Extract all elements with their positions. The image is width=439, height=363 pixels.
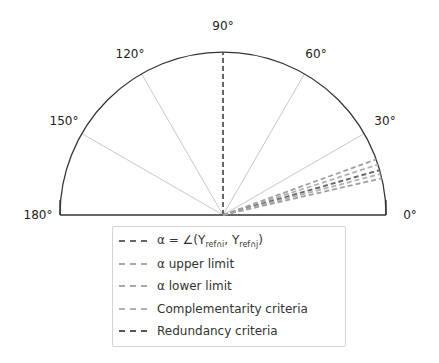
legend-label: α = ∠(Yref∩i, Yref∩j) xyxy=(157,233,263,249)
tick-90: 90° xyxy=(212,19,233,33)
legend-label: α upper limit xyxy=(157,257,234,271)
tick-180: 180° xyxy=(24,208,53,222)
dashed-line-icon xyxy=(119,330,147,332)
legend-item-upper-limit: α upper limit xyxy=(119,253,339,276)
tick-150: 150° xyxy=(50,114,79,128)
legend-item-complementarity: Complementarity criteria xyxy=(119,298,339,321)
legend-item-lower-limit: α lower limit xyxy=(119,275,339,298)
legend-label: Complementarity criteria xyxy=(157,302,308,316)
lower-limit-line xyxy=(223,178,382,215)
legend-label: Redundancy criteria xyxy=(157,324,278,338)
tick-0: 0° xyxy=(403,208,417,222)
dashed-line-icon xyxy=(119,263,147,265)
dashed-line-icon xyxy=(119,240,147,242)
dashed-line-icon xyxy=(119,308,147,310)
legend-label: α lower limit xyxy=(157,279,232,293)
tick-30: 30° xyxy=(374,114,395,128)
legend-item-alpha: α = ∠(Yref∩i, Yref∩j) xyxy=(119,230,339,253)
tick-120: 120° xyxy=(116,47,145,61)
tick-60: 60° xyxy=(305,47,326,61)
legend-item-redundancy: Redundancy criteria xyxy=(119,320,339,343)
legend: α = ∠(Yref∩i, Yref∩j) α upper limit α lo… xyxy=(112,226,346,347)
dashed-line-icon xyxy=(119,285,147,287)
